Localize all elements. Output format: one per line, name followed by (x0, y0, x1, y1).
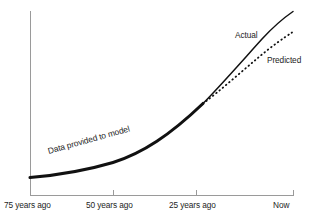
series-line-history (30, 104, 203, 178)
series-label-actual: Actual (235, 30, 257, 40)
tick-label-25-years-ago: 25 years ago (169, 200, 216, 210)
chart-container: Actual Predicted Data provided to model … (0, 0, 315, 222)
tick-label-now: Now (273, 200, 289, 210)
series-line-predicted (203, 33, 292, 104)
chart-plot-area (0, 0, 315, 222)
tick-label-50-years-ago: 50 years ago (86, 200, 133, 210)
series-label-predicted: Predicted (267, 55, 301, 65)
tick-label-75-years-ago: 75 years ago (4, 200, 51, 210)
